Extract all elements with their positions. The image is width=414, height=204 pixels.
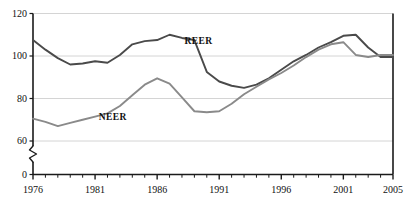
- x-tick-label-1991: 1991: [197, 185, 241, 195]
- y-tick-label-80: 80: [1, 94, 27, 104]
- series-label-neer: NEER: [99, 112, 127, 122]
- data-series-group: [33, 35, 393, 126]
- y-axis-break-icon: [30, 146, 37, 162]
- series-label-reer: REER: [184, 36, 212, 46]
- y-tick-label-100: 100: [1, 51, 27, 61]
- y-tick-label-60: 60: [1, 136, 27, 146]
- y-tick-label-120: 120: [1, 9, 27, 19]
- x-tick-label-1996: 1996: [259, 185, 303, 195]
- chart-container: 120 100 80 60 0 1976 1981 1986 1991 1996…: [0, 0, 414, 204]
- x-tick-label-1976: 1976: [11, 185, 55, 195]
- x-tick-label-2001: 2001: [321, 185, 365, 195]
- y-tick-label-0: 0: [1, 170, 27, 180]
- x-tick-label-2005: 2005: [371, 185, 414, 195]
- x-tick-label-1986: 1986: [135, 185, 179, 195]
- chart-plot-area: [0, 0, 414, 204]
- x-tick-label-1981: 1981: [73, 185, 117, 195]
